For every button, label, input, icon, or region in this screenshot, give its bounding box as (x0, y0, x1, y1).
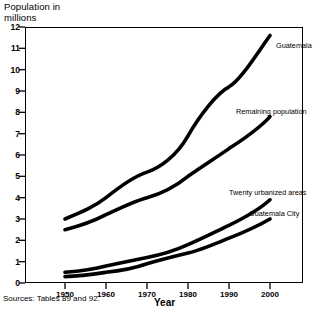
plot-area-border (25, 27, 303, 283)
y-axis-caption: Population in millions (4, 2, 60, 23)
series-label-guatemala-city: Guatemala City (249, 210, 299, 218)
y-tick-label: 10 (0, 66, 20, 75)
y-tick-label: 12 (0, 23, 20, 32)
y-tick-label: 2 (0, 236, 20, 245)
y-tick-label: 5 (0, 172, 20, 181)
y-tick-label: 4 (0, 194, 20, 203)
population-chart-figure: Population in millions (0, 0, 322, 309)
y-tick-label: 11 (0, 44, 20, 53)
series-label-twenty-urbanized-areas: Twenty urbanized areas (229, 189, 306, 197)
y-tick-label: 0 (0, 279, 20, 288)
series-label-remaining-population: Remaining population (236, 108, 307, 116)
x-axis-caption: Year (154, 297, 175, 308)
source-note: Sources: Tables 89 and 92. (3, 294, 100, 303)
x-tick-label: 1980 (170, 291, 206, 299)
x-tick-label: 2000 (252, 291, 288, 299)
x-axis-ticks (65, 283, 270, 289)
y-tick-label: 8 (0, 108, 20, 117)
y-tick-label: 7 (0, 130, 20, 139)
y-tick-label: 9 (0, 87, 20, 96)
y-tick-label: 6 (0, 151, 20, 160)
y-tick-label: 1 (0, 258, 20, 267)
series-label-guatemala: Guatemala (276, 42, 312, 50)
y-tick-label: 3 (0, 215, 20, 224)
x-tick-label: 1990 (211, 291, 247, 299)
